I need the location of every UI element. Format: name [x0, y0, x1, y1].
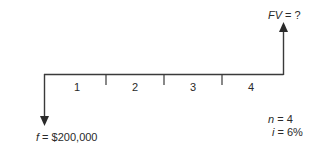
fv-value: = ?: [282, 9, 301, 21]
i-value: = 6%: [274, 126, 302, 138]
period-label-3: 3: [183, 81, 203, 93]
n-value: = 4: [274, 113, 293, 125]
period-label-1: 1: [67, 81, 87, 93]
fv-variable: FV: [268, 9, 282, 21]
param-n-label: n = 4: [268, 113, 293, 125]
period-label-4: 4: [241, 81, 261, 93]
param-i-label: i = 6%: [272, 126, 303, 138]
present-value-label: f = $200,000: [36, 131, 97, 143]
timeline-diagram: [0, 0, 310, 149]
period-label-2: 2: [125, 81, 145, 93]
down-arrow-icon: [40, 116, 49, 126]
future-value-label: FV = ?: [268, 9, 301, 21]
pv-value: = $200,000: [39, 131, 97, 143]
up-arrow-icon: [279, 22, 288, 32]
